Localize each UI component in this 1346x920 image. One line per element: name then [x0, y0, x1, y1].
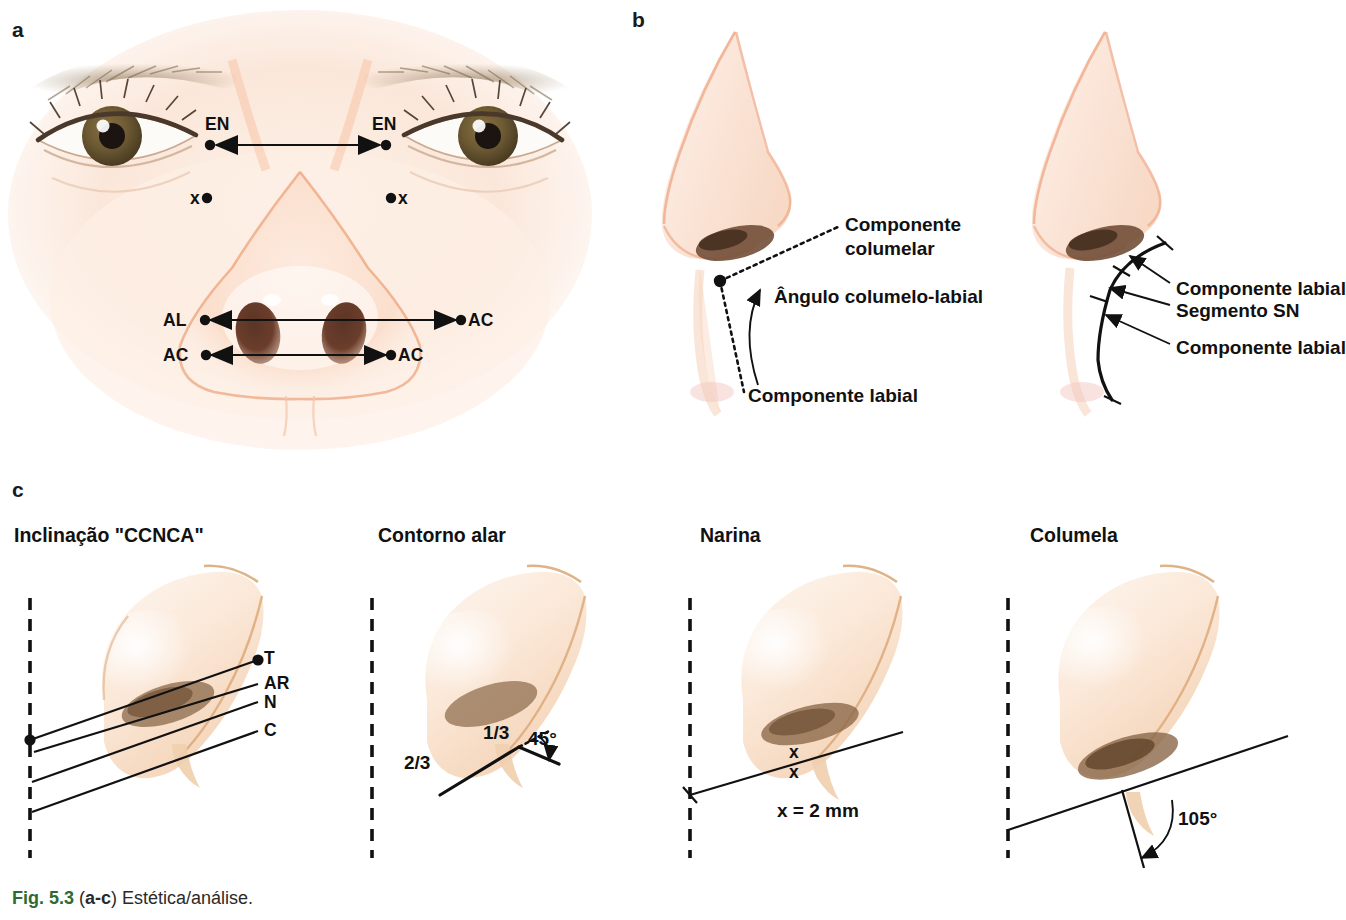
caption-text: Estética/análise. [117, 888, 253, 908]
label-al-left: AL [163, 310, 186, 331]
panel-c-columela-artwork [1008, 566, 1288, 868]
label-componente-columelar-line1: Componente [845, 214, 961, 236]
leader-labial-lower [1106, 315, 1170, 344]
label-componente-columelar-line2: columelar [845, 238, 935, 260]
label-componente-labial-upper: Componente labial [1176, 278, 1346, 300]
point-ac-left-lower [201, 350, 211, 360]
point-al-left [200, 315, 210, 325]
subtitle-columela: Columela [1030, 524, 1118, 547]
label-en-left: EN [205, 114, 229, 135]
label-angle-45: 45° [528, 728, 557, 750]
label-x-right: x [398, 188, 408, 209]
label-ac-right-upper: AC [468, 310, 493, 331]
subtitle-contorno-alar: Contorno alar [378, 524, 506, 547]
label-en-right: EN [372, 114, 396, 135]
label-segmento-sn: Segmento SN [1176, 300, 1300, 322]
leader-labial [720, 281, 744, 392]
label-line-t: T [264, 648, 275, 669]
label-narina-x-lower: x [789, 762, 799, 783]
point-x-right [386, 193, 396, 203]
panel-c-contorno-alar-artwork [372, 566, 587, 858]
point-en-right [381, 140, 391, 150]
point-subnasale [714, 275, 726, 287]
label-ac-right-lower: AC [398, 345, 423, 366]
subtitle-narina: Narina [700, 524, 761, 547]
point-tip-ccnca [252, 654, 263, 665]
point-origin-ccnca [24, 734, 35, 745]
label-angulo-columelo-labial: Ângulo columelo-labial [774, 286, 983, 308]
caption-open-paren: ( [74, 888, 85, 908]
face-illustration [8, 10, 592, 450]
label-ratio-one-third: 1/3 [483, 722, 509, 744]
leader-labial-upper [1130, 256, 1170, 283]
point-en-left [205, 140, 215, 150]
subtitle-ccnca: Inclinação "CCNCA" [14, 524, 204, 547]
label-componente-labial-left: Componente labial [748, 385, 918, 407]
point-ac-right-lower [386, 350, 396, 360]
label-ac-left-lower: AC [163, 345, 188, 366]
label-line-ar: AR [264, 673, 289, 694]
point-ac-right-upper [456, 315, 466, 325]
caption-panel-ref: a-c [85, 888, 111, 908]
labial-segment-bracket [1098, 243, 1165, 400]
angle-arc-columellar-labial [749, 290, 760, 385]
label-narina-x-upper: x [789, 742, 799, 763]
label-componente-labial-lower: Componente labial [1176, 337, 1346, 359]
panel-b-right-nose [1032, 30, 1173, 414]
leader-segment-sn [1110, 288, 1170, 305]
panel-b-left-nose [662, 30, 840, 414]
label-ratio-two-thirds: 2/3 [404, 752, 430, 774]
label-line-c: C [264, 720, 277, 741]
figure-caption: Fig. 5.3 (a-c) Estética/análise. [12, 888, 253, 909]
label-line-n: N [264, 692, 277, 713]
panel-c-ccnca-artwork [24, 566, 263, 858]
label-angle-105: 105° [1178, 808, 1217, 830]
label-x-left: x [190, 188, 200, 209]
label-narina-note: x = 2 mm [777, 800, 859, 822]
caption-figure-number: Fig. 5.3 [12, 888, 74, 908]
point-x-left [202, 193, 212, 203]
